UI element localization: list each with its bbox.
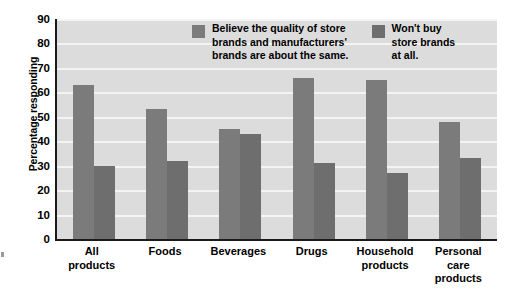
bar-series-2-0 (94, 166, 115, 239)
legend-swatch-icon-series-2 (372, 25, 385, 38)
bar-series-1-0 (73, 85, 94, 239)
y-axis-tick-70: 70 (20, 61, 50, 75)
y-axis-tick-30: 30 (20, 159, 50, 173)
y-axis-tick-10: 10 (20, 208, 50, 222)
bar-series-1-5 (439, 122, 460, 239)
bar-chart-figure: Percentage responding 908070605040302010… (0, 0, 510, 292)
legend-entry-believe-same-quality: Believe the quality of store brands and … (192, 22, 349, 63)
bar-series-1-1 (146, 109, 167, 239)
bar-series-2-1 (167, 161, 188, 239)
legend-label-series-1: Believe the quality of store brands and … (212, 22, 349, 63)
bar-series-2-3 (314, 163, 335, 239)
legend-swatch-icon-series-1 (192, 25, 205, 38)
page-edge-mark (1, 252, 4, 257)
bar-series-1-2 (219, 129, 240, 239)
legend-label-series-2: Won't buy store brands at all. (392, 22, 456, 63)
bar-series-1-4 (366, 80, 387, 239)
y-axis-tick-50: 50 (20, 110, 50, 124)
legend: Believe the quality of store brands and … (192, 22, 455, 63)
bar-series-2-4 (387, 173, 408, 239)
x-axis-category-labels: All productsFoodsBeveragesDrugsHousehold… (55, 245, 495, 292)
y-axis-tick-80: 80 (20, 36, 50, 50)
bar-group-0 (73, 19, 115, 239)
bar-group-1 (146, 19, 188, 239)
y-axis-tick-40: 40 (20, 134, 50, 148)
bar-series-2-5 (460, 158, 481, 239)
y-axis-tick-0: 0 (20, 232, 50, 246)
y-axis-tick-20: 20 (20, 183, 50, 197)
y-axis-tick-labels: 9080706050403020100 (20, 12, 50, 246)
bar-series-2-2 (240, 134, 261, 239)
legend-entry-wont-buy-store-brands: Won't buy store brands at all. (372, 22, 456, 63)
x-axis-label-5: Personal care products (413, 245, 503, 286)
bar-series-1-3 (293, 78, 314, 239)
y-axis-tick-60: 60 (20, 85, 50, 99)
y-axis-tick-90: 90 (20, 12, 50, 26)
